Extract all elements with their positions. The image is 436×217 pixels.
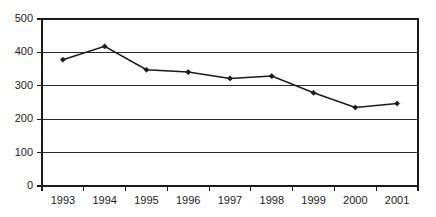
x-axis-tick-label: 1993 bbox=[51, 194, 75, 206]
line-chart: 0100200300400500 19931994199519961997199… bbox=[0, 0, 436, 217]
x-axis-tick-label: 1997 bbox=[218, 194, 242, 206]
x-axis-label-group: 199319941995199619971998199920002001 bbox=[51, 194, 410, 206]
y-axis-tick-label: 300 bbox=[15, 79, 33, 91]
y-axis-tick-label: 500 bbox=[15, 12, 33, 24]
x-axis-tick-label: 1994 bbox=[92, 194, 116, 206]
x-axis-tick-label: 1996 bbox=[176, 194, 200, 206]
y-axis-tick-label: 400 bbox=[15, 45, 33, 57]
y-axis-label-group: 0100200300400500 bbox=[15, 12, 33, 191]
x-axis-tick-label: 2000 bbox=[343, 194, 367, 206]
y-axis-tick-label: 0 bbox=[27, 179, 33, 191]
x-axis-tick-label: 1995 bbox=[134, 194, 158, 206]
x-axis-tick-label: 2001 bbox=[385, 194, 409, 206]
x-axis-tick-label: 1998 bbox=[260, 194, 284, 206]
plot-background bbox=[42, 19, 418, 186]
x-axis-tick-label: 1999 bbox=[301, 194, 325, 206]
chart-canvas: 0100200300400500 19931994199519961997199… bbox=[0, 0, 436, 217]
y-axis-tick-label: 200 bbox=[15, 112, 33, 124]
y-axis-tick-label: 100 bbox=[15, 146, 33, 158]
